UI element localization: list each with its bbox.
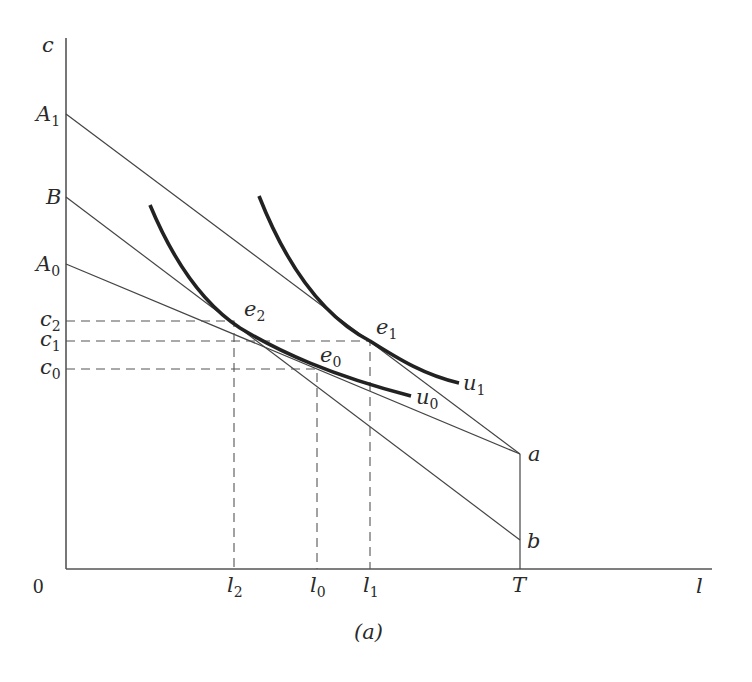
label-A0: A0: [34, 252, 60, 279]
label-a: a: [528, 442, 541, 466]
guide-e0: [66, 369, 317, 569]
y-axis-label: c: [42, 33, 54, 57]
label-e2: e2: [244, 297, 265, 324]
label-e1: e1: [376, 315, 397, 342]
guide-e1: [66, 341, 370, 569]
label-u1: u1: [463, 371, 485, 398]
label-l0: l0: [310, 573, 326, 600]
indifference-curve-u0: [150, 205, 411, 396]
label-c0: c0: [40, 355, 61, 382]
label-B: B: [45, 185, 61, 209]
figure-caption: (a): [354, 620, 383, 644]
label-l2: l2: [227, 573, 243, 600]
labor-supply-diagram: c l 0 A1 B A0 c2 c1 c0 l2 l0 l1 T e2 e1 …: [0, 0, 752, 682]
guide-e2: [66, 321, 234, 569]
label-l1: l1: [363, 573, 379, 600]
label-u0: u0: [416, 385, 438, 412]
x-axis-label: l: [696, 574, 703, 598]
label-T: T: [512, 573, 528, 597]
budget-line-A0-a: [66, 264, 520, 454]
label-b: b: [527, 529, 540, 553]
origin-label: 0: [33, 574, 44, 598]
label-e0: e0: [320, 343, 341, 370]
budget-line-A1-a: [66, 114, 520, 454]
label-A1: A1: [34, 102, 60, 129]
